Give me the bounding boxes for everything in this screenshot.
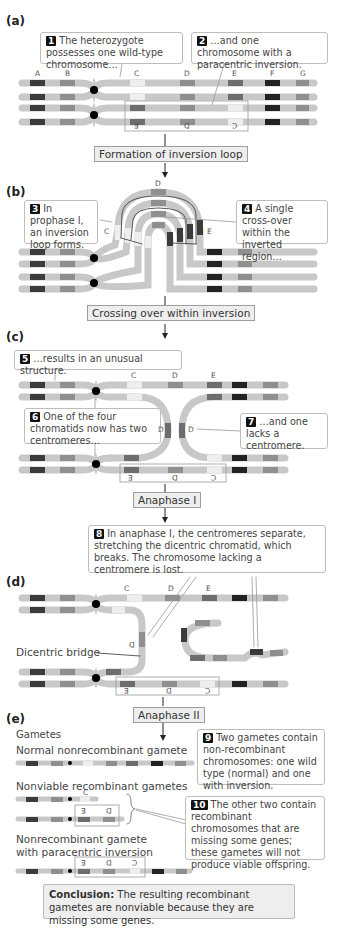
callout-text: One of the four chromatids now has two c… <box>30 411 147 446</box>
step-number-badge: 2 <box>197 36 207 46</box>
panel-d-label: (d) <box>6 575 26 589</box>
gene-label-d: D <box>155 179 161 188</box>
step-number-badge: 1 <box>46 36 56 46</box>
callout-1: 1The heterozygote possesses one wild-typ… <box>40 32 183 64</box>
inversion-gamete-label-line2: with paracentric inversion <box>16 846 153 858</box>
panel-d-anaphase-bridge <box>22 577 285 695</box>
conclusion-box: Conclusion: The resulting recombinant ga… <box>43 884 295 919</box>
step-number-badge: 8 <box>94 529 104 539</box>
gene-label-c: C <box>134 69 139 78</box>
gene-label-g: G <box>300 69 306 78</box>
callout-text: In anaphase I, the centromeres separate,… <box>94 528 306 575</box>
centromere-icon <box>90 111 98 119</box>
callout-2: 2…and one chromosome with a paracentric … <box>191 32 328 64</box>
inversion-gamete-label-line1: Nonrecombinant gamete <box>16 833 147 845</box>
step-anaphase-i: Anaphase I <box>133 492 201 508</box>
normal-gamete-label: Normal nonrecombinant gamete <box>16 744 187 756</box>
nonviable-gametes-label: Nonviable recombinant gametes <box>16 780 187 792</box>
inverted-gene-e: E <box>81 806 86 815</box>
step-number-badge: 4 <box>242 204 252 214</box>
callout-10: 10The other two contain recombinant chro… <box>185 796 325 860</box>
callout-3: 3In prophase I, an inversion loop forms. <box>24 200 98 244</box>
gene-label-a: A <box>35 69 40 78</box>
gene-label-d: D <box>184 69 190 78</box>
step-crossing-over-within-inversion: Crossing over within inversion <box>87 305 255 321</box>
gene-label-c: C <box>124 584 129 593</box>
callout-6: 6One of the four chromatids now has two … <box>24 408 161 444</box>
inverted-gene-e: E <box>124 686 129 695</box>
gene-label-c: C <box>131 371 136 380</box>
gene-label-e: E <box>207 227 212 236</box>
gene-label-d: D <box>172 371 178 380</box>
inverted-gene-d: D <box>106 858 112 867</box>
gene-label-e: E <box>206 584 211 593</box>
inverted-gene-c: C <box>232 121 237 130</box>
step-number-badge: 3 <box>30 204 40 214</box>
gene-label-d: D <box>168 584 174 593</box>
panel-b-label: (b) <box>6 185 26 199</box>
inversion-diagram-graphics <box>0 0 338 932</box>
gene-label-c: C <box>104 227 109 236</box>
callout-8: 8In anaphase I, the centromeres separate… <box>88 525 326 573</box>
centromere-icon <box>90 86 98 94</box>
callout-7: 7…and one lacks a centromere. <box>240 413 328 449</box>
step-formation-of-inversion-loop: Formation of inversion loop <box>94 146 248 162</box>
inverted-gene-e: E <box>134 121 139 130</box>
inverted-gene-e: E <box>81 858 86 867</box>
gametes-heading: Gametes <box>16 729 61 740</box>
gene-label-e: E <box>232 69 237 78</box>
callout-4: 4A single cross-over within the inverted… <box>236 200 328 244</box>
gene-label-e: E <box>211 371 216 380</box>
step-number-badge: 10 <box>191 800 208 810</box>
loop-gene-d-left: D <box>158 425 164 434</box>
step-number-badge: 6 <box>30 412 40 422</box>
callout-text: Two gametes contain non-recombinant chro… <box>203 732 318 791</box>
inverted-gene-d: D <box>106 806 112 815</box>
panel-a-label: (a) <box>6 14 25 28</box>
inverted-gene-d: D <box>166 686 172 695</box>
inverted-gene-c: C <box>205 686 210 695</box>
gene-label-b: B <box>65 69 70 78</box>
panel-e-label: (e) <box>6 712 25 726</box>
dicentric-bridge-label: Dicentric bridge <box>16 646 100 658</box>
bridge-gene-d: D <box>129 640 135 649</box>
panel-c-label: (c) <box>6 330 24 344</box>
callout-text: The other two contain recombinant chromo… <box>191 799 316 870</box>
gene-label-c: C <box>83 788 88 797</box>
inverted-gene-d: D <box>184 121 190 130</box>
inverted-gene-c: C <box>132 858 137 867</box>
inverted-gene-c: C <box>211 473 216 482</box>
step-number-badge: 5 <box>20 354 30 364</box>
conclusion-heading: Conclusion: <box>49 889 114 900</box>
callout-text: …and one chromosome with a paracentric i… <box>197 35 302 70</box>
step-number-badge: 7 <box>246 417 256 427</box>
callout-9: 9Two gametes contain non-recombinant chr… <box>197 729 325 785</box>
step-number-badge: 9 <box>203 733 213 743</box>
inverted-gene-d: D <box>172 473 178 482</box>
gene-label-f: F <box>270 69 274 78</box>
loop-gene-d-right: D <box>188 425 194 434</box>
step-anaphase-ii: Anaphase II <box>133 707 205 723</box>
callout-5: 5…results in an unusual structure. <box>14 350 182 370</box>
inverted-gene-e: E <box>128 473 133 482</box>
